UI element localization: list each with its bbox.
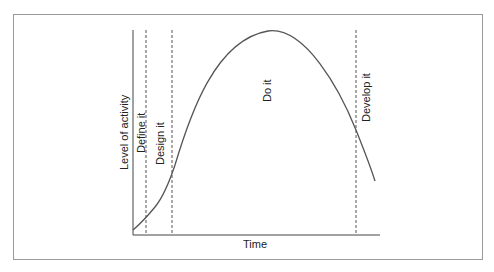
phase-label-develop: Develop it bbox=[360, 73, 372, 122]
activity-curve bbox=[133, 31, 375, 230]
phase-label-do: Do it bbox=[261, 79, 273, 102]
phase-label-design: Design it bbox=[154, 122, 166, 165]
phase-label-define: Define it bbox=[135, 113, 147, 153]
y-axis-label: Level of activity bbox=[118, 94, 130, 170]
activity-diagram: Level of activity Time Define it Design … bbox=[0, 0, 494, 272]
x-axis-label: Time bbox=[243, 238, 267, 250]
